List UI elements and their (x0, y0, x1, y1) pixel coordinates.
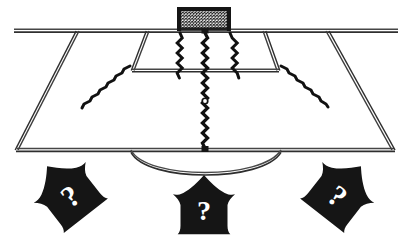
byline-center-spot (202, 146, 209, 152)
goal-right-post (227, 7, 231, 31)
penalty-spot (203, 99, 207, 103)
goal-net-mesh (181, 11, 227, 29)
goal-center-spot (202, 29, 209, 34)
goal-crossbar (177, 7, 231, 11)
diagram-canvas: ? ? ? (0, 0, 408, 239)
goal-left-post (177, 7, 181, 31)
center-run-line (202, 33, 207, 148)
arrow-center-label: ? (197, 195, 211, 226)
penalty-diagram-figure: ? ? ? (0, 0, 408, 239)
goal-with-net (177, 7, 231, 31)
